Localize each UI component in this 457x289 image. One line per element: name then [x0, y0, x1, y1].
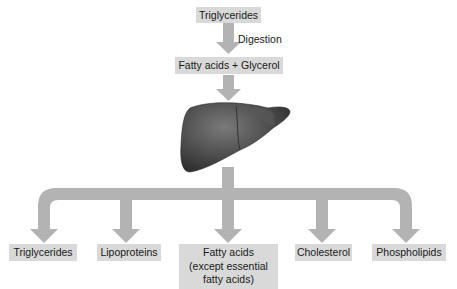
arrow-triglycerides: [30, 229, 58, 243]
box-label: Phospholipids: [376, 246, 441, 259]
arrow-lipoproteins: [112, 229, 140, 243]
arrow-cholesterol: [308, 229, 336, 243]
box-fatty-acids-glycerol: Fatty acids + Glycerol: [175, 57, 283, 74]
box-label: Triglycerides: [199, 9, 258, 22]
output-cholesterol: Cholesterol: [295, 244, 352, 261]
output-lipoproteins: Lipoproteins: [97, 244, 161, 261]
box-label: Triglycerides: [13, 246, 72, 259]
box-label: Lipoproteins: [100, 246, 157, 259]
liver-icon: [181, 103, 290, 172]
arrow-phospholipids: [392, 229, 420, 243]
box-label-line: fatty acids): [203, 273, 254, 287]
box-triglycerides-input: Triglycerides: [196, 7, 261, 23]
arrow-fatty-acids: [214, 229, 242, 243]
box-label: Cholesterol: [297, 246, 350, 259]
box-label-line: Fatty acids: [203, 246, 254, 260]
output-fatty-acids: Fatty acids (except essential fatty acid…: [179, 244, 278, 289]
output-triglycerides: Triglycerides: [9, 244, 77, 261]
box-label: Fatty acids + Glycerol: [178, 59, 279, 72]
to-liver-arrow: [216, 75, 241, 101]
digestion-label: Digestion: [238, 33, 282, 45]
liver-stem: [222, 167, 234, 191]
output-phospholipids: Phospholipids: [372, 244, 446, 261]
box-label-line: (except essential: [189, 260, 268, 274]
